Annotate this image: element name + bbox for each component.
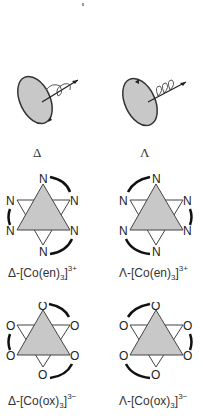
svg-text:O: O [38,368,47,382]
lambda-helix-icon [116,73,186,131]
lambda-co-ox-label: Λ-[Co(ox)3]3− [119,392,187,410]
svg-text:O: O [183,319,192,333]
delta-co-ox-structure: OOO OOO [6,302,79,382]
svg-text:N: N [119,224,128,238]
delta-co-ox-label: Δ-[Co(ox)3]3− [8,392,76,410]
svg-text:N: N [183,194,192,208]
delta-co-en-structure: NNN NNN [6,172,79,259]
lambda-co-ox-structure: OOO OOO [119,302,192,382]
svg-text:O: O [119,319,128,333]
svg-text:O: O [6,319,15,333]
lambda-co-en-label: Λ-[Co(en)3]3+ [119,264,188,282]
delta-helix-icon [11,71,78,129]
svg-text:N: N [39,245,48,259]
stray-mark [82,3,84,6]
svg-text:O: O [119,349,128,363]
svg-text:O: O [151,368,160,382]
svg-text:O: O [38,302,47,313]
svg-text:N: N [152,245,161,259]
helix-diagrams [0,60,203,145]
svg-text:N: N [70,194,79,208]
delta-symbol: Δ [33,145,41,161]
svg-text:O: O [70,349,79,363]
svg-text:O: O [6,349,15,363]
delta-co-en-label: Δ-[Co(en)3]3+ [8,264,77,282]
svg-text:N: N [119,194,128,208]
lambda-co-en-structure: NNN NNN [119,172,192,259]
svg-text:O: O [183,349,192,363]
svg-text:N: N [152,172,161,186]
svg-text:N: N [6,224,15,238]
co-en-diagrams: NNN NNN NNN NNN [0,172,203,262]
svg-text:N: N [70,224,79,238]
svg-text:N: N [39,172,48,186]
co-ox-diagrams: OOO OOO OOO OOO [0,302,203,392]
svg-text:N: N [183,224,192,238]
lambda-symbol: Λ [140,145,149,161]
svg-text:N: N [6,194,15,208]
svg-text:O: O [151,302,160,313]
svg-text:O: O [70,319,79,333]
